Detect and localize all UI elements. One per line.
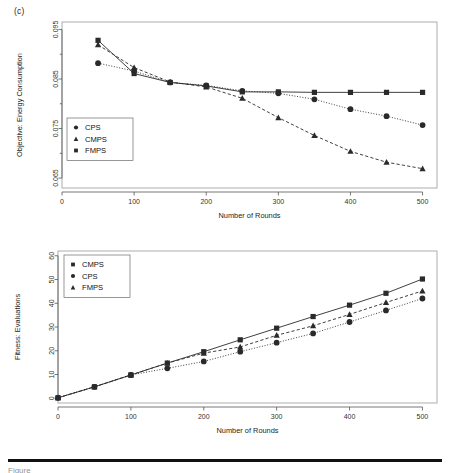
chart-bottom-canvas: 01020304050600100200300400500Number of R…: [0, 243, 450, 455]
data-point: [419, 288, 425, 294]
series-markers-fmps: [95, 38, 425, 95]
data-point: [347, 319, 353, 325]
y-axis-tick-label: 0.075: [52, 120, 59, 138]
x-axis-tick-label: 0: [60, 198, 64, 205]
data-point: [311, 132, 317, 138]
data-point: [348, 106, 354, 112]
legend-label: FMPS: [85, 146, 106, 155]
data-point: [312, 96, 318, 102]
data-point: [201, 359, 207, 365]
chart-objective-energy-consumption: 0.0650.0750.0850.0950100200300400500Numb…: [0, 10, 450, 235]
data-point: [383, 159, 389, 165]
y-axis-tick-label: 40: [48, 299, 55, 307]
data-point: [168, 80, 173, 85]
x-axis-tick-label: 0: [56, 413, 60, 420]
data-point: [95, 60, 101, 66]
y-axis-title: Objective: Energy Consumption: [15, 53, 24, 157]
data-point: [383, 307, 389, 313]
data-point: [383, 291, 388, 296]
figure-divider-rule: [8, 459, 442, 462]
x-axis-tick-label: 100: [128, 198, 140, 205]
chart-top-canvas: 0.0650.0750.0850.0950100200300400500Numb…: [0, 10, 450, 235]
y-axis-tick-label: 0.065: [52, 169, 59, 187]
x-axis-tick-label: 300: [273, 198, 285, 205]
data-point: [312, 90, 317, 95]
legend-label: CPS: [85, 123, 101, 132]
series-markers-fmps: [55, 288, 426, 401]
series-markers-cps: [95, 60, 425, 128]
legend-marker-circle: [71, 274, 75, 278]
x-axis-tick-label: 400: [345, 198, 357, 205]
data-point: [384, 90, 389, 95]
data-point: [237, 349, 243, 355]
legend-marker-square: [71, 263, 75, 267]
data-point: [204, 83, 209, 88]
y-axis-tick-label: 20: [48, 347, 55, 355]
y-axis-tick-label: 50: [48, 276, 55, 284]
x-axis-tick-label: 100: [125, 413, 137, 420]
data-point: [95, 38, 100, 43]
data-point: [420, 122, 426, 128]
data-point: [274, 326, 279, 331]
y-axis-tick-label: 10: [48, 371, 55, 379]
legend-label: CMPS: [82, 260, 104, 269]
data-point: [347, 303, 352, 308]
x-axis-title: Number of Rounds: [218, 211, 280, 220]
data-point: [238, 337, 243, 342]
y-axis-tick-label: 0.085: [52, 70, 59, 88]
data-point: [347, 148, 353, 154]
x-axis-tick-label: 500: [417, 198, 429, 205]
y-axis-tick-label: 0.095: [52, 21, 59, 39]
legend-marker-circle: [74, 125, 78, 129]
series-markers-cmps: [95, 42, 426, 172]
data-point: [276, 89, 281, 94]
series-line-fmps: [98, 40, 423, 92]
x-axis-tick-label: 500: [417, 413, 429, 420]
y-axis-title: Fitness: Evaluations: [13, 294, 22, 360]
data-point: [420, 276, 425, 281]
data-point: [164, 365, 170, 371]
data-point: [310, 314, 315, 319]
data-point: [420, 90, 425, 95]
y-axis-tick-label: 60: [48, 252, 55, 260]
data-point: [346, 311, 352, 317]
data-point: [132, 71, 137, 76]
data-point: [131, 64, 137, 70]
data-point: [348, 90, 353, 95]
data-point: [383, 299, 389, 305]
figure-caption-fragment: Figure: [8, 466, 308, 473]
figure-panel-c: (c) 0.0650.0750.0850.0950100200300400500…: [0, 0, 450, 473]
data-point: [275, 114, 281, 120]
y-axis-tick-label: 0: [48, 396, 55, 400]
legend-label: CPS: [82, 272, 98, 281]
legend-label: FMPS: [82, 283, 103, 292]
data-point: [240, 89, 245, 94]
x-axis-title: Number of Rounds: [216, 426, 278, 435]
series-line-cmps: [98, 45, 423, 169]
data-point: [420, 296, 426, 302]
legend-label: CMPS: [85, 135, 107, 144]
chart-fitness-evaluations: 01020304050600100200300400500Number of R…: [0, 243, 450, 455]
x-axis-tick-label: 400: [344, 413, 356, 420]
plot-frame: [62, 22, 437, 188]
y-axis-tick-label: 30: [48, 323, 55, 331]
data-point: [274, 340, 280, 346]
x-axis-tick-label: 300: [271, 413, 283, 420]
x-axis-tick-label: 200: [200, 198, 212, 205]
legend-marker-square: [74, 149, 78, 153]
x-axis-tick-label: 200: [198, 413, 210, 420]
data-point: [384, 113, 390, 119]
data-point: [310, 331, 316, 337]
